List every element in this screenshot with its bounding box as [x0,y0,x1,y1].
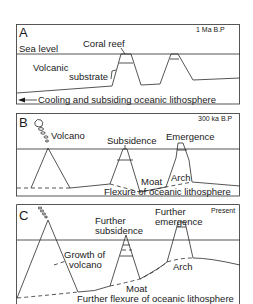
volcanic-label: Volcanic [33,62,69,73]
arch-label-b: Arch [171,172,191,183]
emergence-label: Emergence [166,131,215,142]
panel-b-frame [17,114,240,197]
subsidence-label: Subsidence [107,135,157,146]
sea-level-label: Sea level [19,43,58,54]
panel-b-caption: Flexure of oceanic lithosphere [104,186,231,197]
further-emergence-line2: emergence [155,216,203,227]
panel-a-letter: A [19,25,28,40]
substrate-label-text: substrate [69,71,108,82]
panel-c: C Present Further subsidence Further eme… [17,205,241,304]
panel-b-age: 300 ka B.P [198,115,233,122]
further-subsidence-line2: subsidence [95,225,143,236]
panel-c-letter: C [19,208,28,223]
coral-reef-label: Coral reef [83,38,125,49]
growth-of-volcano-line2: volcano [69,259,102,270]
panel-a: A 1 Ma B.P Sea level Coral reef Volcanic… [17,25,241,106]
volcanic-island-evolution-diagram: A 1 Ma B.P Sea level Coral reef Volcanic… [0,0,253,304]
panel-c-age: Present [211,207,235,214]
panel-a-caption: Cooling and subsiding oceanic lithospher… [38,94,216,105]
volcano-label: Volcano [51,130,85,141]
arch-label-c: Arch [173,261,193,272]
panel-b: B 300 ka B.P Volcano Subsidence Emergenc… [17,114,241,198]
panel-b-letter: B [19,115,28,130]
panel-a-age: 1 Ma B.P [196,26,225,33]
panel-c-caption: Further flexure of oceanic lithosphere [77,293,234,304]
